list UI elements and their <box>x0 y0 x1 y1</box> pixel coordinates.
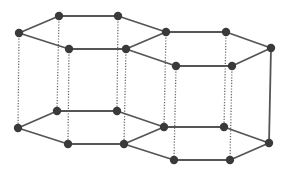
atom-tL3 <box>122 45 130 53</box>
bond-bR4-bL3 <box>124 144 174 160</box>
bond-tR4-tL3 <box>126 49 176 66</box>
atom-tL2 <box>114 12 122 20</box>
dotted-bond-tL0-bL0 <box>18 33 19 128</box>
dotted-bond-tL2-bL2 <box>117 16 118 111</box>
atom-tL0 <box>15 29 23 37</box>
atom-tR2 <box>267 44 275 52</box>
bond-bL0-bL1 <box>18 111 57 128</box>
atom-bL1 <box>53 107 61 115</box>
atom-bL3 <box>120 140 128 148</box>
bond-bS-bL3 <box>124 127 164 144</box>
atom-tR1 <box>222 28 230 36</box>
atom-tR3 <box>228 62 236 70</box>
dotted-bond-tS-bS <box>164 32 166 127</box>
bond-tR2-tR3 <box>232 48 271 66</box>
atom-bR2 <box>265 139 273 147</box>
atom-tL1 <box>55 12 63 20</box>
bond-tR1-tR2 <box>226 32 271 48</box>
dotted-bond-tL4-bL4 <box>68 49 69 144</box>
atom-tR4 <box>172 62 180 70</box>
dotted-bond-tR1-bR1 <box>224 32 226 127</box>
dotted-bond-tL1-bL1 <box>57 16 59 111</box>
dotted-bond-tL3-bL3 <box>124 49 126 144</box>
bond-tL0-tL1 <box>19 16 59 33</box>
atom-bL2 <box>113 107 121 115</box>
atom-bL4 <box>64 140 72 148</box>
bond-tL2-tS <box>118 16 166 32</box>
hexagonal-lattice-diagram <box>0 0 287 174</box>
bond-tS-tL3 <box>126 32 166 49</box>
atom-bL0 <box>14 124 22 132</box>
dotted-bond-tR4-bR4 <box>174 66 176 160</box>
atom-bR3 <box>226 156 234 164</box>
bond-tL4-tL0 <box>19 33 69 49</box>
solid-bonds <box>18 16 271 160</box>
bond-bR2-bR3 <box>230 143 269 160</box>
bond-bR1-bR2 <box>224 127 269 143</box>
atom-bS <box>160 123 168 131</box>
atom-bR1 <box>220 123 228 131</box>
atom-tS <box>162 28 170 36</box>
atom-tL4 <box>65 45 73 53</box>
bond-tR2-bR2 <box>269 48 271 143</box>
dotted-bond-tR3-bR3 <box>230 66 232 160</box>
bond-bL4-bL0 <box>18 128 68 144</box>
atom-bR4 <box>170 156 178 164</box>
